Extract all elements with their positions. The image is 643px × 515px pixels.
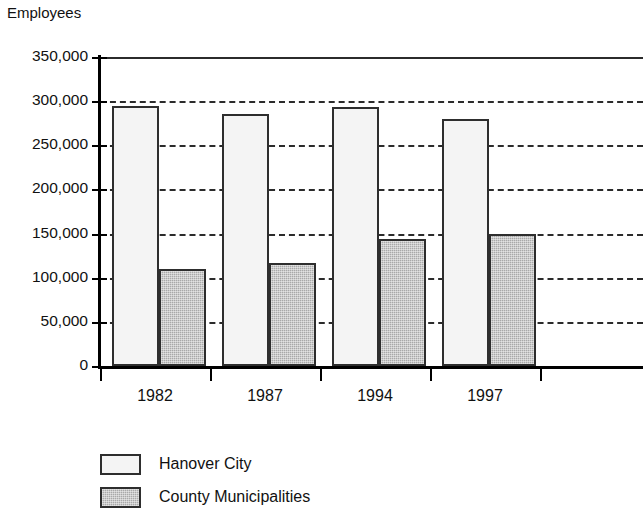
x-axis-tick-label: 1987 (210, 386, 320, 406)
y-axis-tick-label: 0 (2, 357, 88, 373)
y-axis-tick (92, 57, 107, 59)
x-axis-tick-label: 1997 (430, 386, 540, 406)
bar (442, 119, 489, 366)
x-axis-tick-label: 1994 (320, 386, 430, 406)
y-axis-tick-labels: 350,000300,000250,000200,000150,000100,0… (0, 0, 88, 515)
x-axis-tick (320, 369, 322, 381)
legend-item: Hanover City (100, 450, 310, 478)
x-axis-tick (100, 369, 102, 381)
legend-swatch (100, 454, 141, 475)
y-axis-tick-label: 100,000 (2, 269, 88, 285)
y-axis-tick-label: 150,000 (2, 225, 88, 241)
y-axis-tick-label: 50,000 (2, 313, 88, 329)
legend-label: County Municipalities (159, 487, 310, 507)
y-axis-tick-label: 350,000 (2, 48, 88, 64)
gridline (100, 101, 643, 103)
legend-swatch (100, 487, 141, 508)
bar (269, 263, 316, 366)
y-axis-tick (92, 234, 107, 236)
bar (159, 269, 206, 366)
x-axis-tick-label: 1982 (100, 386, 210, 406)
y-axis-tick (92, 101, 107, 103)
bar (489, 234, 536, 366)
bar (379, 239, 426, 366)
y-axis-tick (92, 145, 107, 147)
x-axis-tick (540, 369, 542, 381)
y-axis-tick (92, 366, 107, 368)
y-axis-tick-label: 300,000 (2, 92, 88, 108)
plot-area (100, 57, 643, 366)
y-axis-tick-label: 250,000 (2, 136, 88, 152)
x-axis-tick (210, 369, 212, 381)
y-axis-tick (92, 322, 107, 324)
y-axis-tick (92, 189, 107, 191)
y-axis-tick (92, 278, 107, 280)
x-axis-tick (430, 369, 432, 381)
bar (112, 106, 159, 366)
legend-item: County Municipalities (100, 483, 310, 511)
bar (222, 114, 269, 366)
bar (332, 107, 379, 366)
x-axis-line (98, 366, 643, 369)
chart-legend: Hanover CityCounty Municipalities (100, 450, 310, 515)
legend-label: Hanover City (159, 454, 251, 474)
y-axis-tick-label: 200,000 (2, 180, 88, 196)
chart-page: Employees 350,000300,000250,000200,00015… (0, 0, 643, 515)
gridline (100, 57, 643, 59)
